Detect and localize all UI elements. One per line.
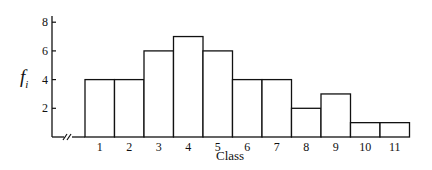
- histogram-bar: [262, 80, 292, 137]
- y-tick-label: 8: [34, 16, 48, 28]
- x-tick-label: 7: [262, 141, 292, 153]
- x-tick-label: 3: [144, 141, 174, 153]
- histogram-bar: [233, 80, 263, 137]
- histogram-bar: [351, 123, 381, 137]
- histogram-bar: [174, 37, 204, 137]
- histogram-bar: [144, 51, 174, 137]
- histogram-bar: [115, 80, 145, 137]
- x-tick-label: 2: [114, 141, 144, 153]
- histogram-bar: [203, 51, 233, 137]
- x-tick-label: 8: [291, 141, 321, 153]
- histogram-bar: [292, 108, 322, 137]
- y-tick-label: 4: [34, 74, 48, 86]
- y-tick-label: 6: [34, 45, 48, 57]
- histogram-bar: [380, 123, 410, 137]
- histogram-bar: [321, 94, 351, 137]
- x-axis-label: Class: [216, 148, 244, 164]
- y-tick-label: 2: [34, 102, 48, 114]
- x-tick-label: 1: [85, 141, 115, 153]
- x-tick-label: 4: [173, 141, 203, 153]
- axis-break-icon: [67, 134, 71, 140]
- x-tick-label: 10: [350, 141, 380, 153]
- x-tick-label: 11: [380, 141, 410, 153]
- y-axis-label: fi: [20, 66, 28, 90]
- histogram-bar: [85, 80, 115, 137]
- x-tick-label: 9: [321, 141, 351, 153]
